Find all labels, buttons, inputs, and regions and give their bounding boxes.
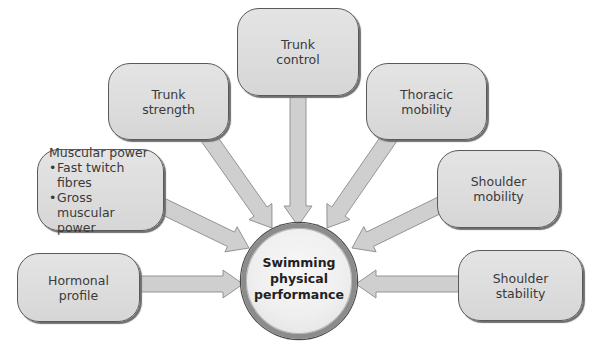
arrow-thoracic-mobility-to-center xyxy=(327,132,397,228)
node-label: Shoulder mobility xyxy=(471,174,527,204)
arrow-muscular-power-to-center xyxy=(155,197,250,252)
swimming-performance-diagram: Trunk control Trunk strength Thoracic mo… xyxy=(0,0,602,355)
bullet-item: Fast twitch fibres xyxy=(49,160,163,190)
node-shoulder-stability: Shoulder stability xyxy=(458,250,583,321)
node-trunk-strength: Trunk strength xyxy=(108,63,229,140)
central-node-swimming-performance: Swimming physical performance xyxy=(241,223,357,339)
node-trunk-control: Trunk control xyxy=(237,8,359,96)
arrow-shoulder-mobility-to-center xyxy=(352,197,446,252)
node-bullet-list: Fast twitch fibres Gross muscular power xyxy=(49,160,163,235)
node-title: Muscular power xyxy=(49,145,163,160)
arrow-shoulder-stability-to-center xyxy=(356,270,460,298)
arrow-trunk-strength-to-center xyxy=(202,132,273,228)
bullet-item: Gross muscular power xyxy=(49,190,149,235)
node-label: Trunk strength xyxy=(142,87,195,117)
node-label: Shoulder stability xyxy=(493,271,549,301)
arrow-trunk-control-to-center xyxy=(284,94,312,226)
node-muscular-power: Muscular power Fast twitch fibres Gross … xyxy=(37,149,164,231)
node-hormonal-profile: Hormonal profile xyxy=(17,253,140,322)
arrow-hormonal-profile-to-center xyxy=(138,270,243,298)
node-label: Thoracic mobility xyxy=(400,87,453,117)
node-label: Hormonal profile xyxy=(48,273,109,303)
node-thoracic-mobility: Thoracic mobility xyxy=(366,63,487,140)
central-node-label: Swimming physical performance xyxy=(254,255,344,303)
node-label: Trunk control xyxy=(276,37,319,67)
node-shoulder-mobility: Shoulder mobility xyxy=(437,150,560,228)
